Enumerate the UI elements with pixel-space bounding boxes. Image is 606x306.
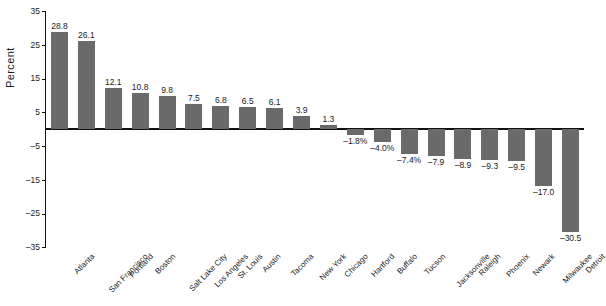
y-tick-label: –25	[26, 208, 42, 218]
y-tick-5: –15	[26, 175, 46, 185]
x-axis-labels: AtlantaSan FranciscoPortlandBostonSalt L…	[46, 0, 584, 306]
x-axis-label: Tucson	[423, 252, 448, 277]
y-tick-label: 5	[35, 107, 42, 117]
y-tick-2: 15	[31, 73, 46, 83]
x-axis-label: Buffalo	[396, 252, 420, 276]
y-tick-label: –15	[26, 175, 42, 185]
x-axis-label: New York	[317, 252, 347, 282]
y-tick-4: –5	[31, 141, 46, 151]
y-tick-label: –5	[31, 141, 42, 151]
y-tick-1: 25	[31, 40, 46, 50]
x-axis-label: Newark	[531, 252, 557, 278]
y-tick-label: –35	[26, 242, 42, 252]
y-tick-7: –35	[26, 242, 46, 252]
y-tick-label: 15	[31, 73, 42, 83]
y-tick-label: 25	[31, 40, 42, 50]
x-axis-label: Atlanta	[73, 252, 97, 276]
y-tick-6: –25	[26, 208, 46, 218]
y-tick-label: 35	[31, 6, 42, 16]
y-tick-0: 35	[31, 6, 46, 16]
x-axis-label: Hartford	[370, 252, 397, 279]
x-axis-label: Tacoma	[289, 252, 315, 278]
x-axis-label: Boston	[153, 252, 177, 276]
x-axis-label: Austin	[260, 252, 282, 274]
y-axis-ticks: 3525155–5–15–25–35	[0, 0, 46, 306]
x-axis-label: Phoenix	[504, 252, 531, 279]
